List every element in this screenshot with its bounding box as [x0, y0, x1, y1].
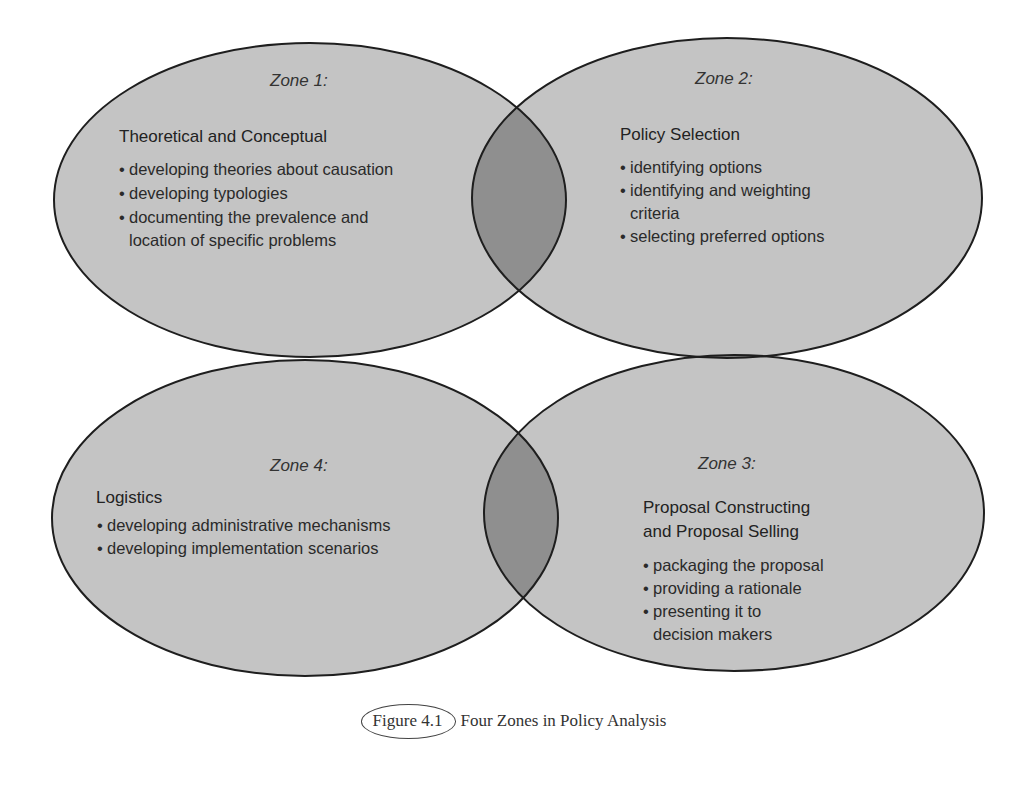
zone-4-item: developing implementation scenarios — [107, 539, 379, 557]
zone-3-bullet: • — [643, 579, 649, 597]
zone-4-label: Zone 4: — [269, 456, 328, 475]
zone-1-item: location of specific problems — [129, 231, 336, 249]
zone-1-item: developing theories about causation — [129, 160, 393, 178]
zone-2-bullet: • — [620, 181, 626, 199]
zone-2-item: criteria — [630, 204, 680, 222]
zone-4-item: developing administrative mechanisms — [107, 516, 390, 534]
figure-number: Figure 4.1 — [363, 707, 453, 735]
zone-2-bullet: • — [620, 158, 626, 176]
zone-1-bullet: • — [119, 208, 125, 226]
zone-1-bullet: • — [119, 184, 125, 202]
zone-4-bullet: • — [97, 539, 103, 557]
zone-1-title: Theoretical and Conceptual — [119, 127, 327, 146]
zone-2-item: selecting preferred options — [630, 227, 824, 245]
zone-3-title: Proposal Constructing — [643, 498, 810, 517]
zone-3-item: providing a rationale — [653, 579, 802, 597]
zone-2-item: identifying and weighting — [630, 181, 811, 199]
zone-2-item: identifying options — [630, 158, 762, 176]
zone-4-bullet: • — [97, 516, 103, 534]
zone-2-title: Policy Selection — [620, 125, 740, 144]
zone-3-item: presenting it to — [653, 602, 761, 620]
zone-3-label: Zone 3: — [697, 454, 756, 473]
zone-2-bullet: • — [620, 227, 626, 245]
zone-3-bullet: • — [643, 602, 649, 620]
zone-3-bullet: • — [643, 556, 649, 574]
figure-title: Four Zones in Policy Analysis — [460, 711, 666, 730]
zone-1-bullet: • — [119, 160, 125, 178]
four-zones-venn-diagram: Zone 1: Theoretical and Conceptual • dev… — [0, 0, 1029, 700]
zone-1-label: Zone 1: — [269, 71, 328, 90]
zone-1-item: documenting the prevalence and — [129, 208, 368, 226]
zone-3-item: decision makers — [653, 625, 772, 643]
zone-4-title: Logistics — [96, 488, 162, 507]
zone-3-title: and Proposal Selling — [643, 522, 799, 541]
zone-1-item: developing typologies — [129, 184, 288, 202]
zone-2-label: Zone 2: — [694, 69, 753, 88]
figure-caption: Figure 4.1Four Zones in Policy Analysis — [0, 707, 1029, 735]
zone-3-item: packaging the proposal — [653, 556, 824, 574]
